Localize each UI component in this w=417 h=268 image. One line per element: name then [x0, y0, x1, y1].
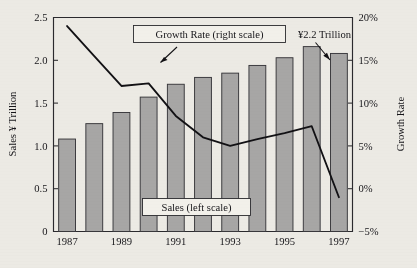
x-axis-tick-label: 1997	[328, 236, 349, 247]
left-axis-tick-label: 0.5	[34, 183, 47, 194]
left-axis-tick-label: 2.0	[34, 55, 47, 66]
left-axis-tick-label: 2.5	[34, 12, 47, 23]
chart-figure: 00.51.01.52.02.5 −5%0%5%10%15%20% 198719…	[0, 0, 417, 268]
sales-callout-label: Sales (left scale)	[161, 202, 231, 214]
left-axis-tick-label: 0	[42, 226, 47, 237]
left-axis-tick-label: 1.0	[34, 141, 47, 152]
right-axis-title: Growth Rate	[395, 96, 406, 151]
bar	[276, 58, 293, 232]
bar	[330, 53, 347, 231]
right-axis-tick-label: 0%	[359, 183, 373, 194]
growth-callout-label: Growth Rate (right scale)	[156, 29, 264, 41]
right-axis-tick-label: 5%	[359, 141, 373, 152]
growth-rate-callout: Growth Rate (right scale)	[134, 26, 286, 43]
left-axis-title: Sales ¥ Trillion	[7, 91, 18, 156]
bar	[86, 124, 103, 232]
value-callout-label: ¥2.2 Trillion	[298, 29, 352, 40]
sales-callout: Sales (left scale)	[143, 199, 251, 216]
right-axis-tick-label: −5%	[359, 226, 379, 237]
right-axis-tick-label: 20%	[359, 12, 379, 23]
x-axis-tick-label: 1991	[165, 236, 186, 247]
sales-growth-rate-chart: 00.51.01.52.02.5 −5%0%5%10%15%20% 198719…	[0, 0, 417, 268]
left-axis-tick-label: 1.5	[34, 98, 47, 109]
right-axis-tick-label: 15%	[359, 55, 379, 66]
right-axis-tick-label: 10%	[359, 98, 379, 109]
x-axis-tick-label: 1993	[220, 236, 241, 247]
x-axis-tick-label: 1987	[56, 236, 77, 247]
bar	[249, 65, 266, 231]
bar	[59, 139, 76, 231]
x-axis-tick-label: 1989	[111, 236, 132, 247]
x-axis-tick-label: 1995	[274, 236, 295, 247]
bar	[113, 113, 130, 232]
